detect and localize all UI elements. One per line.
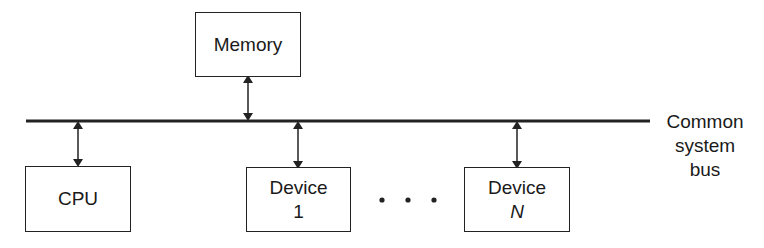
- device-1-label-line1: Device: [269, 176, 327, 200]
- bus-label-line2: system: [650, 134, 760, 158]
- memory-label: Memory: [214, 33, 283, 57]
- bus-label-line1: Common: [650, 110, 760, 134]
- bus-label: Common system bus: [650, 110, 760, 182]
- diagram-canvas: Memory CPU Device 1 Device N Common syst…: [0, 0, 764, 248]
- device-1-label-line2: 1: [293, 200, 304, 224]
- memory-box: Memory: [195, 12, 301, 77]
- device-n-label-line1: Device: [488, 176, 546, 200]
- cpu-box: CPU: [25, 166, 131, 232]
- ellipsis-dot: [431, 197, 436, 202]
- device-n-box: Device N: [464, 167, 570, 232]
- device-1-box: Device 1: [246, 167, 351, 232]
- device-n-label-line2: N: [510, 200, 524, 224]
- ellipsis-dot: [405, 197, 410, 202]
- ellipsis-dot: [379, 197, 384, 202]
- bus-label-line3: bus: [650, 158, 760, 182]
- cpu-label: CPU: [58, 187, 98, 211]
